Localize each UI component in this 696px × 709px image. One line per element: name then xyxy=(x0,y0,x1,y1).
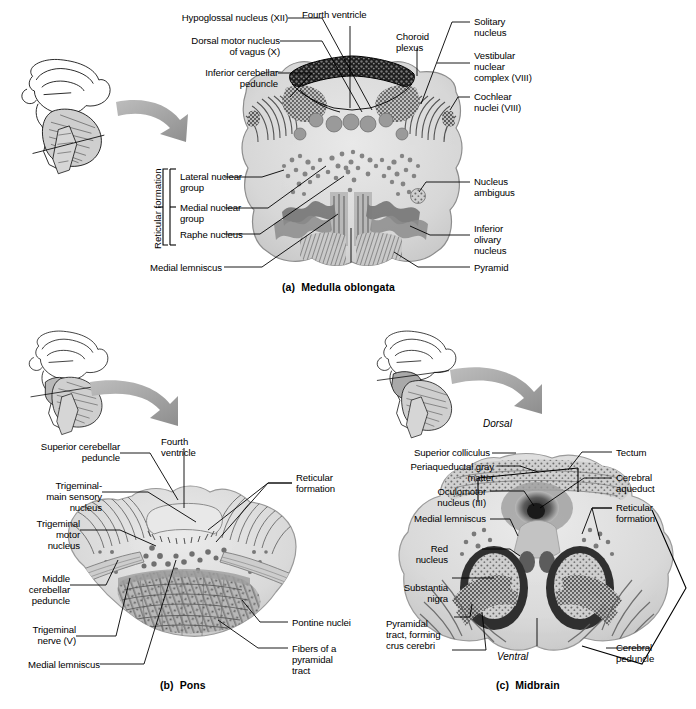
curved-arrow-icon-b xyxy=(90,380,178,426)
label-superior-colliculus: Superior colliculus xyxy=(360,447,490,458)
label-medial-lemniscus-a: Medial lemniscus xyxy=(40,262,222,273)
label-fourth-ventricle-b: Fourth ventricle xyxy=(161,436,196,458)
label-trigeminal-main-sensory-nucleus: Trigeminal- main sensory nucleus xyxy=(0,480,102,514)
caption-panel-b: (b) Pons xyxy=(160,679,206,691)
label-pyramid: Pyramid xyxy=(474,262,509,273)
label-cerebral-aqueduct: Cerebral aqueduct xyxy=(616,472,655,494)
label-medial-nuclear-group: Medial nuclear group xyxy=(180,202,241,224)
label-tectum: Tectum xyxy=(616,447,646,458)
label-reticular-formation-c: Reticular formation xyxy=(616,502,655,524)
label-fourth-ventricle-a: Fourth ventricle xyxy=(302,9,367,20)
label-middle-cerebellar-peduncle: Middle cerebellar peduncle xyxy=(0,573,70,607)
label-raphe-nucleus: Raphe nucleus xyxy=(180,229,243,240)
label-inferior-cerebellar-peduncle: Inferior cerebellar peduncle xyxy=(40,67,278,89)
label-dorsal-motor-nucleus-vagus: Dorsal motor nucleus of vagus (X) xyxy=(40,35,280,57)
label-red-nucleus: Red nucleus xyxy=(360,543,448,565)
label-fibers-pyramidal-tract: Fibers of a pyramidal tract xyxy=(292,643,336,677)
label-trigeminal-motor-nucleus: Trigeminal motor nucleus xyxy=(0,518,80,552)
label-cerebral-peduncle: Cerebral peduncle xyxy=(616,642,654,664)
label-periaqueductal-gray-matter: Periaqueductal gray matter xyxy=(360,461,494,483)
label-inferior-olivary-nucleus: Inferior olivary nucleus xyxy=(474,223,506,257)
label-nucleus-ambiguus: Nucleus ambiguus xyxy=(474,176,515,198)
label-hypoglossal-nucleus: Hypoglossal nucleus (XII) xyxy=(40,12,288,23)
label-lateral-nuclear-group: Lateral nuclear group xyxy=(180,171,242,193)
label-medial-lemniscus-c: Medial lemniscus xyxy=(360,513,486,524)
bracket-label-reticular-formation-a: Reticular formation xyxy=(152,168,163,249)
label-pyramidal-tract-crus-cerebri: Pyramidal tract, forming crus cerebri xyxy=(386,618,441,652)
label-medial-lemniscus-b: Medial lemniscus xyxy=(0,659,100,670)
label-substantia-nigra: Substantia nigra xyxy=(360,582,448,604)
label-choroid-plexus: Choroid plexus xyxy=(396,31,429,53)
orientation-ventral: Ventral xyxy=(497,651,528,662)
figure-root: Hypoglossal nucleus (XII) Dorsal motor n… xyxy=(0,0,696,709)
brain-midsagittal-icon-c xyxy=(377,331,456,438)
label-pontine-nuclei: Pontine nuclei xyxy=(292,617,351,628)
label-superior-cerebellar-peduncle: Superior cerebellar peduncle xyxy=(0,441,120,463)
label-oculomotor-nucleus: Oculomotor nucleus (III) xyxy=(360,486,486,508)
label-trigeminal-nerve: Trigeminal nerve (V) xyxy=(0,624,76,646)
curved-arrow-icon-a xyxy=(116,100,188,142)
curved-arrow-icon-c xyxy=(450,367,542,414)
label-cochlear-nuclei: Cochlear nuclei (VIII) xyxy=(474,91,521,113)
caption-panel-a: (a) Medulla oblongata xyxy=(282,281,395,293)
caption-panel-c: (c) Midbrain xyxy=(496,679,560,691)
label-solitary-nucleus: Solitary nucleus xyxy=(474,16,506,38)
label-vestibular-nuclear-complex: Vestibular nuclear complex (VIII) xyxy=(474,50,532,84)
figure-artwork xyxy=(0,0,696,709)
label-reticular-formation-b: Reticular formation xyxy=(296,472,335,494)
orientation-dorsal: Dorsal xyxy=(483,418,512,429)
